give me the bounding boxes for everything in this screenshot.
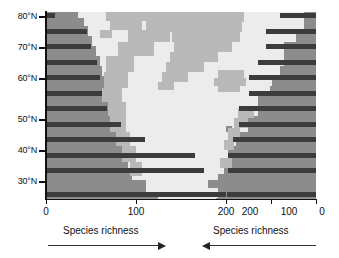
bar-west-35n	[46, 153, 195, 158]
arrow-head-left-icon	[202, 242, 210, 250]
landmass-arctic-islands	[106, 56, 134, 72]
x-tick-label-east-100: 100	[281, 206, 298, 217]
landmass-greenland	[158, 82, 174, 90]
bar-west-80n	[46, 13, 55, 18]
bar-east-65n	[258, 60, 317, 65]
landmass-arctic-islands	[106, 12, 164, 21]
bar-west-25n	[46, 192, 226, 197]
y-tick-label-60n: 60°N	[18, 74, 37, 83]
landmass-iceland	[214, 78, 246, 86]
y-axis-labels: 80°N 70°N 60°N 50°N 40°N 30°N	[0, 0, 37, 258]
x-axis-line	[45, 199, 317, 201]
bar-east-75n	[266, 29, 316, 34]
sea-ice-mass	[112, 116, 232, 126]
landmass-arctic-islands	[128, 30, 170, 42]
y-axis-line	[45, 11, 47, 200]
landmass-greenland	[168, 22, 242, 32]
bar-east-50n	[239, 106, 316, 111]
x-tick-label-east-200: 200	[242, 206, 259, 217]
landmass-greenland	[174, 42, 232, 52]
x-axis-label-west: Species richness	[63, 225, 139, 236]
bar-east-55n	[249, 91, 317, 96]
landmass-arctic-islands	[118, 42, 154, 56]
landmass-arctic-islands	[110, 21, 142, 30]
x-tick-label-west-100: 100	[128, 206, 145, 217]
bar-west-55n	[46, 91, 102, 96]
bar-east-70n	[266, 44, 316, 49]
y-tick-label-40n: 40°N	[18, 146, 37, 155]
landmass-greenland	[170, 52, 218, 62]
bar-west-50n	[46, 106, 107, 111]
sea-ice-mass	[116, 126, 226, 136]
landmass-iceland	[218, 86, 240, 92]
bar-east-25n	[227, 192, 316, 197]
landmass-arctic-islands	[104, 72, 128, 88]
x-axis-label-east: Species richness	[213, 225, 289, 236]
arrow-head-right-icon	[158, 242, 166, 250]
arrow-line-west	[48, 245, 160, 246]
x-tick-label-east-0: 0	[319, 206, 325, 217]
landmass-iceland	[218, 70, 244, 78]
landmass-greenland	[164, 12, 244, 22]
sea-ice-mass	[108, 96, 252, 106]
sea-ice-mass	[110, 106, 242, 116]
y-tick-label-50n: 50°N	[18, 115, 37, 124]
bar-east-80n	[280, 13, 316, 18]
plot-area	[46, 12, 316, 199]
bar-west-70n	[46, 44, 91, 49]
y-tick-label-30n: 30°N	[18, 177, 37, 186]
arrow-line-east	[210, 245, 316, 246]
bar-east-45n	[239, 122, 316, 127]
x-tick-label-west-0: 0	[43, 206, 49, 217]
bar-west-45n	[46, 122, 121, 127]
landmass-arctic-islands	[146, 21, 168, 30]
bar-east-35n	[228, 153, 316, 158]
bar-east-60n	[249, 75, 317, 80]
landmass-arctic-islands	[102, 88, 122, 102]
bar-west-75n	[46, 29, 87, 34]
landmass-greenland	[166, 62, 204, 72]
bar-west-60n	[46, 75, 100, 80]
chart-figure: 80°N 70°N 60°N 50°N 40°N 30°N	[0, 0, 339, 258]
landmass-arctic-islands	[100, 30, 112, 38]
y-tick-label-80n: 80°N	[18, 12, 37, 21]
y-tick-label-70n: 70°N	[18, 43, 37, 52]
landmass-greenland	[172, 32, 240, 42]
bar-west-30n	[46, 168, 204, 173]
landmass-iberia	[220, 158, 232, 168]
landmass-arctic-islands	[108, 102, 126, 116]
bar-west-65n	[46, 60, 97, 65]
x-tick-label-west-200: 200	[218, 206, 235, 217]
bar-east-40n	[233, 137, 316, 142]
bar-west-40n	[46, 137, 145, 142]
landmass-greenland	[162, 72, 188, 82]
bar-east-30n	[228, 168, 316, 173]
sea-ice-mass	[104, 76, 272, 86]
